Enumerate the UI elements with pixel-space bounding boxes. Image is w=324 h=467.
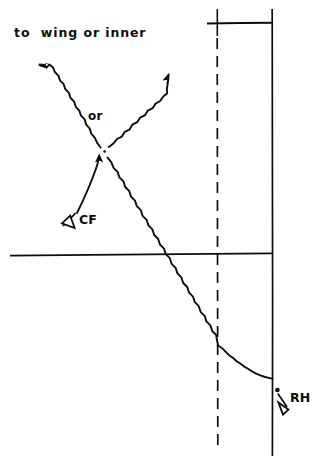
label-to-wing-or-inner: to wing or inner [14, 27, 146, 40]
rh-marker [275, 388, 288, 415]
cf-pointer-marker [62, 213, 76, 228]
vertex-dot-icon [103, 150, 106, 153]
top-horizontal-rule [207, 23, 273, 24]
cf-arrow-shaft [77, 158, 99, 213]
descending-ray [108, 158, 273, 379]
branch-arrow-left [38, 63, 100, 148]
branch-arrow-right [109, 72, 170, 147]
diagram-vector-layer [0, 0, 324, 467]
branch-arrow-right-shaft [109, 75, 169, 147]
rh-point-dot-icon [275, 388, 280, 393]
label-cf: CF [79, 214, 97, 227]
label-or: or [88, 110, 103, 122]
dashed-vertical-rule [217, 38, 218, 449]
rh-pointer-arrowhead-icon [278, 402, 288, 414]
horizontal-rule [10, 253, 272, 255]
diagram-canvas: to wing or inner or CF RH [0, 0, 324, 467]
label-rh: RH [290, 392, 311, 405]
branch-arrow-left-shaft [39, 64, 100, 147]
cf-arrow [77, 154, 103, 213]
